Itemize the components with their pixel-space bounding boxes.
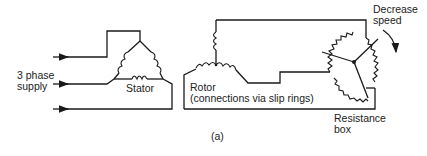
stator-delta-windings bbox=[114, 41, 163, 79]
figure-caption: (a) bbox=[211, 131, 224, 142]
rotor-label: Rotor (connections via slip rings) bbox=[190, 82, 314, 104]
resistance-box-label: Resistance box bbox=[334, 113, 386, 135]
supply-label: 3 phase supply bbox=[17, 70, 54, 92]
supply-lines bbox=[53, 31, 172, 109]
resistance-box bbox=[322, 32, 378, 102]
decrease-speed-label: Decrease speed bbox=[373, 4, 418, 26]
rotation-arrow-icon bbox=[383, 30, 396, 52]
stator-label: Stator bbox=[126, 83, 154, 94]
